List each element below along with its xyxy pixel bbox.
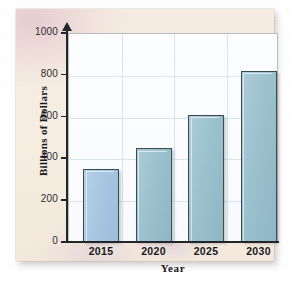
y-axis-line — [66, 29, 68, 243]
y-tick-mark-0 — [61, 241, 68, 243]
y-axis-title: Billions of Dollars — [37, 56, 49, 206]
y-tick-mark-800 — [61, 74, 68, 76]
x-tick-label-2015: 2015 — [74, 245, 128, 257]
x-axis-line — [66, 241, 279, 243]
bar-2015[interactable] — [83, 169, 119, 242]
y-tick-label-0: 0 — [16, 235, 58, 246]
chart-card: 1000 800 600 400 200 0 2015 2020 2025 20… — [16, 9, 274, 261]
bars-layer — [68, 33, 278, 242]
scanned-page: 1000 800 600 400 200 0 2015 2020 2025 20… — [0, 0, 292, 288]
y-tick-mark-400 — [61, 157, 68, 159]
x-tick-label-2025: 2025 — [179, 245, 233, 257]
bar-2030[interactable] — [241, 71, 277, 242]
y-tick-mark-600 — [61, 116, 68, 118]
y-axis-arrow-icon — [62, 22, 72, 31]
x-tick-label-2030: 2030 — [232, 245, 286, 257]
y-tick-mark-1000 — [61, 32, 68, 34]
y-tick-mark-200 — [61, 199, 68, 201]
bar-2020[interactable] — [136, 148, 172, 242]
bar-2025[interactable] — [188, 115, 224, 243]
x-tick-label-2020: 2020 — [127, 245, 181, 257]
y-tick-label-1000: 1000 — [16, 26, 58, 37]
x-axis-title: Year — [68, 262, 278, 274]
